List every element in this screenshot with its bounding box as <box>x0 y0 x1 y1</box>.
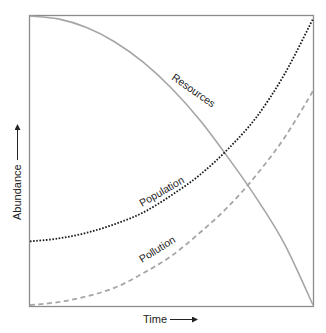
population-label: Population <box>137 173 186 208</box>
plot-frame <box>30 16 314 307</box>
pollution-curve <box>30 91 313 305</box>
population-curve <box>30 19 313 242</box>
chart: Resources Population Pollution Abundance… <box>0 0 326 333</box>
x-axis-label-group: Time <box>143 313 197 325</box>
pollution-label: Pollution <box>137 233 178 265</box>
resources-curve <box>30 16 313 305</box>
resources-label: Resources <box>170 71 218 110</box>
x-axis-label: Time <box>143 313 167 325</box>
y-axis-label-group: Abundance <box>11 125 23 220</box>
y-axis-label: Abundance <box>11 164 23 220</box>
